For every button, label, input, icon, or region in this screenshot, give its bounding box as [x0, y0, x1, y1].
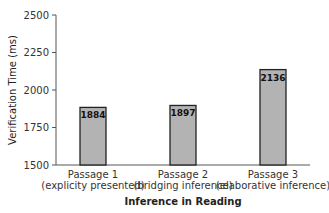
category-label: Passage 1	[68, 169, 118, 180]
y-tick-label: 2250	[24, 47, 49, 58]
x-axis-title: Inference in Reading	[124, 196, 241, 207]
category-label: Passage 3	[248, 169, 298, 180]
y-axis-title: Verification Time (ms)	[7, 35, 18, 145]
x-axis-labels: Passage 1(explicity presented)Passage 2(…	[41, 169, 329, 191]
y-tick-label: 1750	[24, 122, 49, 133]
bar-value-label: 1897	[170, 108, 195, 118]
y-tick-label: 1500	[24, 160, 49, 171]
bar-value-label: 1884	[80, 110, 105, 120]
bar-chart: 15001750200022502500 188418972136 Passag…	[0, 0, 329, 213]
category-label: Passage 2	[158, 169, 208, 180]
bar-value-label: 2136	[260, 73, 285, 83]
y-tick-label: 2500	[24, 10, 49, 21]
bar	[260, 70, 286, 165]
bars: 188418972136	[80, 70, 286, 165]
category-sublabel: (explicity presented)	[41, 180, 145, 191]
category-sublabel: (elaborative inference)	[216, 180, 329, 191]
y-tick-label: 2000	[24, 85, 49, 96]
